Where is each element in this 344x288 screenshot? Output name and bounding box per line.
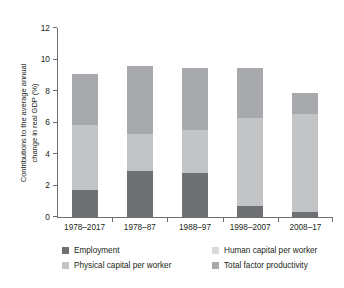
y-tick: 12: [53, 27, 57, 28]
bar-segment: [127, 134, 153, 172]
bar-segment: [237, 68, 263, 118]
legend-swatch-icon: [212, 262, 219, 269]
legend-swatch-icon: [212, 247, 219, 254]
y-tick-label: 8: [45, 86, 50, 96]
y-tick-label: 12: [41, 23, 50, 33]
x-tick: [332, 218, 333, 222]
bar-segment: [182, 173, 208, 217]
legend-label: Physical capital per worker: [74, 261, 171, 270]
x-tick: [223, 218, 224, 222]
legend-item: Total factor productivity: [212, 261, 334, 270]
y-tick: 8: [53, 90, 57, 91]
x-axis-label: 2008–17: [289, 223, 321, 232]
bar-segment: [182, 68, 208, 129]
legend-label: Total factor productivity: [224, 261, 308, 270]
x-axis-line: [57, 217, 333, 218]
legend-item: Physical capital per worker: [62, 261, 212, 270]
legend-label: Human capital per worker: [224, 246, 317, 255]
y-tick-label: 4: [45, 149, 50, 159]
bar-segment: [127, 66, 153, 134]
x-axis-label: 1978–2017: [64, 223, 105, 232]
y-tick: 10: [53, 59, 57, 60]
y-tick: 0: [53, 216, 57, 217]
bar-segment: [72, 190, 98, 217]
x-axis-label: 1988–97: [179, 223, 211, 232]
bar-segment: [127, 171, 153, 217]
bar-stack: [237, 68, 263, 217]
bar-segment: [72, 125, 98, 190]
y-axis-line: [57, 28, 58, 218]
y-tick: 4: [53, 153, 57, 154]
bar-segment: [182, 130, 208, 173]
bar-stack: [127, 66, 153, 217]
bar-segment: [292, 93, 318, 114]
y-tick-label: 6: [45, 117, 50, 127]
y-axis-title: Contributions to the average annual chan…: [14, 28, 44, 218]
plot-area: 024681012 1978–20171978–871988–971998–20…: [57, 28, 333, 218]
bar-segment: [292, 212, 318, 217]
x-tick: [112, 218, 113, 222]
y-axis-title-line-2: change in real GDP (%): [29, 64, 40, 183]
legend-swatch-icon: [62, 247, 69, 254]
x-tick: [167, 218, 168, 222]
bar-segment: [292, 114, 318, 212]
bar-stack: [292, 93, 318, 217]
y-tick-label: 2: [45, 180, 50, 190]
y-tick-label: 0: [45, 212, 50, 222]
legend-swatch-icon: [62, 262, 69, 269]
legend-item: Employment: [62, 246, 212, 255]
x-axis-label: 1998–2007: [230, 223, 271, 232]
x-tick: [278, 218, 279, 222]
y-tick: 2: [53, 185, 57, 186]
bar-stack: [182, 68, 208, 217]
y-axis-title-line-1: Contributions to the average annual: [19, 64, 30, 183]
bar-segment: [72, 74, 98, 124]
bar-segment: [237, 118, 263, 206]
y-tick: 6: [53, 122, 57, 123]
chart-legend: EmploymentHuman capital per workerPhysic…: [62, 243, 334, 273]
x-axis-label: 1978–87: [124, 223, 156, 232]
legend-item: Human capital per worker: [212, 246, 334, 255]
legend-label: Employment: [74, 246, 120, 255]
chart-figure: Contributions to the average annual chan…: [0, 0, 344, 288]
bar-stack: [72, 74, 98, 217]
bar-segment: [237, 206, 263, 217]
y-tick-label: 10: [41, 54, 50, 64]
